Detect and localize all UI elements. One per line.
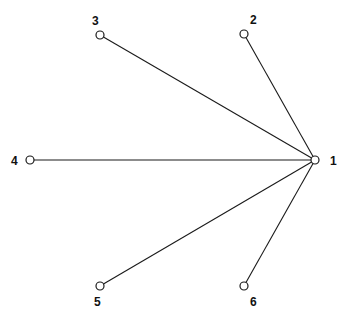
edge-1-5 (100, 160, 315, 286)
node-label-5: 5 (94, 295, 101, 309)
node-label-4: 4 (11, 154, 18, 168)
node-6 (240, 282, 248, 290)
edge-1-2 (244, 34, 315, 160)
node-label-2: 2 (250, 13, 257, 27)
node-label-6: 6 (250, 295, 257, 309)
graph-svg: 123456 (0, 0, 350, 320)
labels-group: 123456 (11, 13, 337, 309)
node-4 (26, 156, 34, 164)
node-label-1: 1 (330, 154, 337, 168)
node-5 (96, 282, 104, 290)
node-label-3: 3 (92, 14, 99, 28)
edges-group (30, 34, 315, 286)
edge-1-6 (244, 160, 315, 286)
node-3 (96, 31, 104, 39)
star-graph-diagram: 123456 (0, 0, 350, 320)
node-1 (311, 156, 319, 164)
node-2 (240, 30, 248, 38)
edge-1-3 (100, 35, 315, 160)
